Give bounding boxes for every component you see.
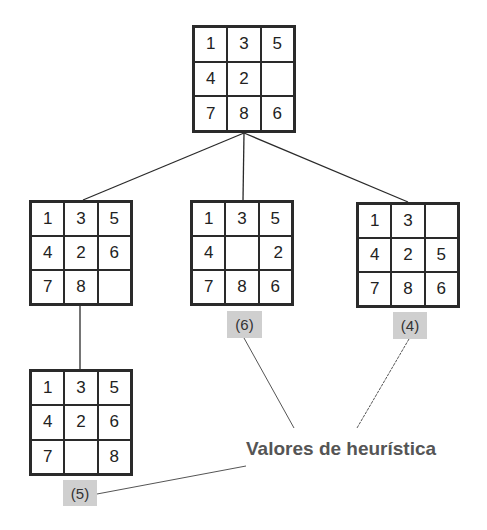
cell-empty [425, 204, 458, 238]
cell: 5 [261, 27, 294, 62]
cell: 1 [31, 202, 64, 236]
cell: 5 [98, 202, 131, 236]
edge-root-middle [243, 133, 244, 200]
cell: 2 [64, 405, 97, 439]
cell: 4 [192, 236, 225, 270]
cell: 5 [259, 202, 292, 236]
puzzle-child-left: 1 3 5 4 2 6 7 8 [29, 200, 133, 306]
cell: 4 [31, 405, 64, 439]
cell: 1 [194, 27, 227, 62]
cell: 3 [227, 27, 260, 62]
cell: 4 [194, 62, 227, 97]
cell-empty [64, 440, 97, 474]
cell: 4 [31, 236, 64, 270]
cell: 7 [31, 270, 64, 304]
pointer-line-6 [244, 338, 294, 428]
edge-root-left [83, 133, 244, 200]
cell-empty [98, 270, 131, 304]
cell: 7 [358, 272, 391, 306]
cell: 8 [64, 270, 97, 304]
edge-root-right [244, 133, 408, 202]
cell: 7 [31, 440, 64, 474]
cell: 1 [358, 204, 391, 238]
heuristic-badge-middle: (6) [227, 311, 262, 338]
cell: 6 [98, 405, 131, 439]
cell: 6 [259, 270, 292, 304]
heuristic-values-caption: Valores de heurística [246, 438, 436, 460]
cell: 1 [31, 371, 64, 405]
cell: 2 [259, 236, 292, 270]
cell-empty [261, 62, 294, 97]
cell: 4 [358, 238, 391, 272]
cell: 6 [261, 96, 294, 131]
cell: 7 [192, 270, 225, 304]
cell: 8 [98, 440, 131, 474]
cell: 6 [98, 236, 131, 270]
cell: 8 [227, 96, 260, 131]
cell: 8 [225, 270, 258, 304]
puzzle-root: 1 3 5 4 2 7 8 6 [192, 25, 296, 133]
pointer-line-4 [357, 339, 409, 428]
search-tree-diagram: 1 3 5 4 2 7 8 6 1 3 5 4 2 6 7 8 1 3 5 4 … [0, 0, 487, 530]
cell: 6 [425, 272, 458, 306]
puzzle-child-right: 1 3 4 2 5 7 8 6 [356, 202, 460, 308]
cell: 3 [64, 371, 97, 405]
cell: 2 [64, 236, 97, 270]
cell: 8 [391, 272, 424, 306]
cell-empty [225, 236, 258, 270]
cell: 5 [425, 238, 458, 272]
heuristic-badge-right: (4) [393, 312, 427, 339]
cell: 3 [64, 202, 97, 236]
cell: 3 [225, 202, 258, 236]
cell: 2 [391, 238, 424, 272]
puzzle-child-middle: 1 3 5 4 2 7 8 6 [190, 200, 294, 306]
heuristic-badge-grandchild: (5) [63, 480, 97, 506]
cell: 2 [227, 62, 260, 97]
cell: 3 [391, 204, 424, 238]
cell: 7 [194, 96, 227, 131]
puzzle-grandchild: 1 3 5 4 2 6 7 8 [29, 369, 133, 476]
cell: 5 [98, 371, 131, 405]
cell: 1 [192, 202, 225, 236]
